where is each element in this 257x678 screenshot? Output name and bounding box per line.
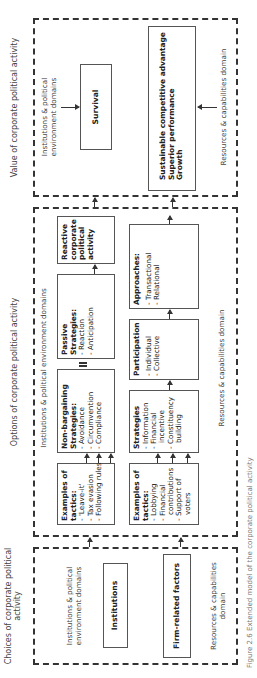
choices-domain-resources: Resources & capabilities domain — [210, 554, 227, 658]
arrow-firm-to-options — [180, 538, 181, 547]
choices-panel — [33, 547, 238, 665]
tactics-box-top: Examples of tactics: - 'Leave-it' - Tax … — [57, 463, 115, 525]
spacer — [129, 209, 135, 215]
tactics-top-title: Examples of tactics: — [60, 470, 78, 521]
arrow — [94, 265, 95, 274]
outcome-item: Growth — [176, 30, 185, 180]
passive-title: Passive Strategies: — [60, 309, 78, 355]
tactics-bottom-title: Examples of tactics: — [132, 470, 150, 521]
arrow — [110, 454, 111, 463]
arrow-institutions-to-options — [89, 538, 90, 547]
arrow-reactive-to-value — [94, 198, 95, 207]
approaches-box: Approaches: - Transactional - Relational — [129, 224, 199, 309]
tactics-box-bottom: Examples of tactics: - Lobbying - Financ… — [129, 463, 199, 525]
choices-domain-institutions: Institutions & political environment dom… — [66, 556, 83, 656]
firm-related-factors-box: Firm-related factors — [163, 554, 191, 658]
heading-choices: Choices of corporate political activity — [4, 547, 22, 665]
participation-box: Participation - Individual - Collective — [129, 319, 199, 380]
arrow — [187, 454, 188, 463]
nonbargaining-strategies-box: Non-bargaining Strategies: - Avoidance -… — [57, 369, 115, 453]
strategies-box: Strategies - Information - Financial inc… — [129, 390, 199, 453]
heading-value: Value of corporate political activity — [10, 18, 19, 197]
arrow — [98, 454, 99, 463]
arrow — [172, 454, 173, 463]
reactive-title: Reactive corporate political activity — [60, 219, 95, 260]
tactic-item: - Following rules — [95, 467, 103, 521]
survival-box: Survival — [80, 64, 112, 150]
value-domain-resources: Resources & capabilities domain — [220, 42, 229, 172]
reactive-cpa-box: Reactive corporate political activity — [57, 216, 115, 264]
arrow — [157, 454, 158, 463]
equals-connector — [79, 365, 87, 367]
options-domain-institutions: Institutions & political environment dom… — [40, 228, 49, 508]
approaches-title: Approaches: — [132, 253, 141, 305]
arrow — [169, 381, 170, 390]
strategy-item: - Anticipation — [87, 278, 95, 355]
strategy-item: building — [175, 394, 183, 449]
strategies-title: Strategies — [132, 406, 141, 449]
arrow — [86, 454, 87, 463]
heading-options: Options of corporate political activity — [10, 207, 19, 537]
strategy-item: - Compliance — [95, 373, 103, 449]
figure-caption: Figure 2.6 Extended model of the corpora… — [246, 457, 254, 668]
outcomes-box: Sustainable competitive advantage Superi… — [148, 26, 196, 191]
passive-strategies-box: Passive Strategies: - Reaction - Anticip… — [57, 274, 115, 359]
institutions-box: Institutions — [103, 563, 128, 648]
tactic-item: voters — [184, 467, 192, 521]
arrow — [169, 310, 170, 319]
arrow-to-outcomes — [198, 107, 217, 108]
diagram-canvas: Choices of corporate political activity … — [0, 0, 257, 678]
arrow — [169, 216, 170, 224]
nonbargaining-title: Non-bargaining Strategies: — [60, 384, 78, 449]
participation-title: Participation — [132, 322, 141, 376]
participation-item: - Collective — [153, 323, 161, 376]
approach-item: - Relational — [153, 228, 161, 305]
equals-connector — [79, 362, 87, 364]
value-domain-institutions: Institutions & political environment dom… — [41, 62, 58, 172]
options-domain-resources: Resources & capabilities domain — [218, 228, 227, 508]
arrow-to-survival — [61, 107, 79, 108]
arrow-proactive-to-value — [172, 198, 173, 207]
